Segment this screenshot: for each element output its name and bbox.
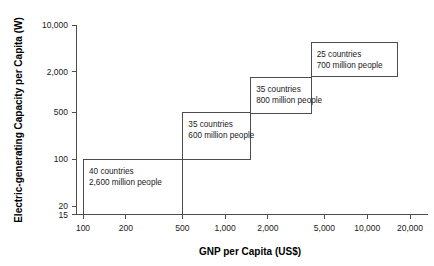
step-population-label: 700 million people bbox=[317, 61, 383, 70]
x-tick-label: 20,000 bbox=[397, 223, 423, 233]
x-tick-label: 1,000 bbox=[214, 223, 236, 233]
x-tick-label: 2,000 bbox=[257, 223, 279, 233]
x-axis-group: 1002005001,0002,0005,00010,00020,000 bbox=[76, 215, 428, 234]
step-country-count-label: 40 countries bbox=[89, 167, 134, 176]
step-population-label: 2,600 million people bbox=[89, 178, 162, 187]
y-axis-title: Electric-generating Capacity per Capita … bbox=[13, 17, 24, 223]
step-country-count-label: 35 countries bbox=[188, 120, 233, 129]
y-tick-label: 20 bbox=[59, 201, 69, 211]
x-tick-label: 500 bbox=[175, 223, 189, 233]
y-tick-label: 100 bbox=[54, 154, 68, 164]
y-tick-label: 10,000 bbox=[42, 20, 68, 30]
step-box bbox=[312, 43, 398, 77]
step-population-label: 600 million people bbox=[188, 131, 254, 140]
y-tick-label: 500 bbox=[54, 107, 68, 117]
y-axis-ticks: 15201005002,00010,000 bbox=[42, 20, 77, 220]
x-tick-label: 200 bbox=[119, 223, 133, 233]
chart-container: 15201005002,00010,000 1002005001,0002,00… bbox=[0, 0, 434, 266]
step-country-count-label: 25 countries bbox=[317, 50, 362, 59]
y-tick-label: 2,000 bbox=[47, 67, 69, 77]
staircase-steps: 40 countries2,600 million people35 count… bbox=[84, 43, 398, 215]
x-axis-title: GNP per Capita (US$) bbox=[199, 246, 301, 257]
x-tick-label: 5,000 bbox=[314, 223, 336, 233]
step-population-label: 800 million people bbox=[256, 96, 322, 105]
y-axis-group: 15201005002,00010,000 bbox=[42, 20, 77, 220]
x-tick-label: 10,000 bbox=[354, 223, 380, 233]
x-tick-label: 100 bbox=[76, 223, 90, 233]
x-axis-ticks: 1002005001,0002,0005,00010,00020,000 bbox=[76, 215, 423, 234]
chart-svg: 15201005002,00010,000 1002005001,0002,00… bbox=[0, 0, 434, 266]
step-country-count-label: 35 countries bbox=[256, 85, 301, 94]
